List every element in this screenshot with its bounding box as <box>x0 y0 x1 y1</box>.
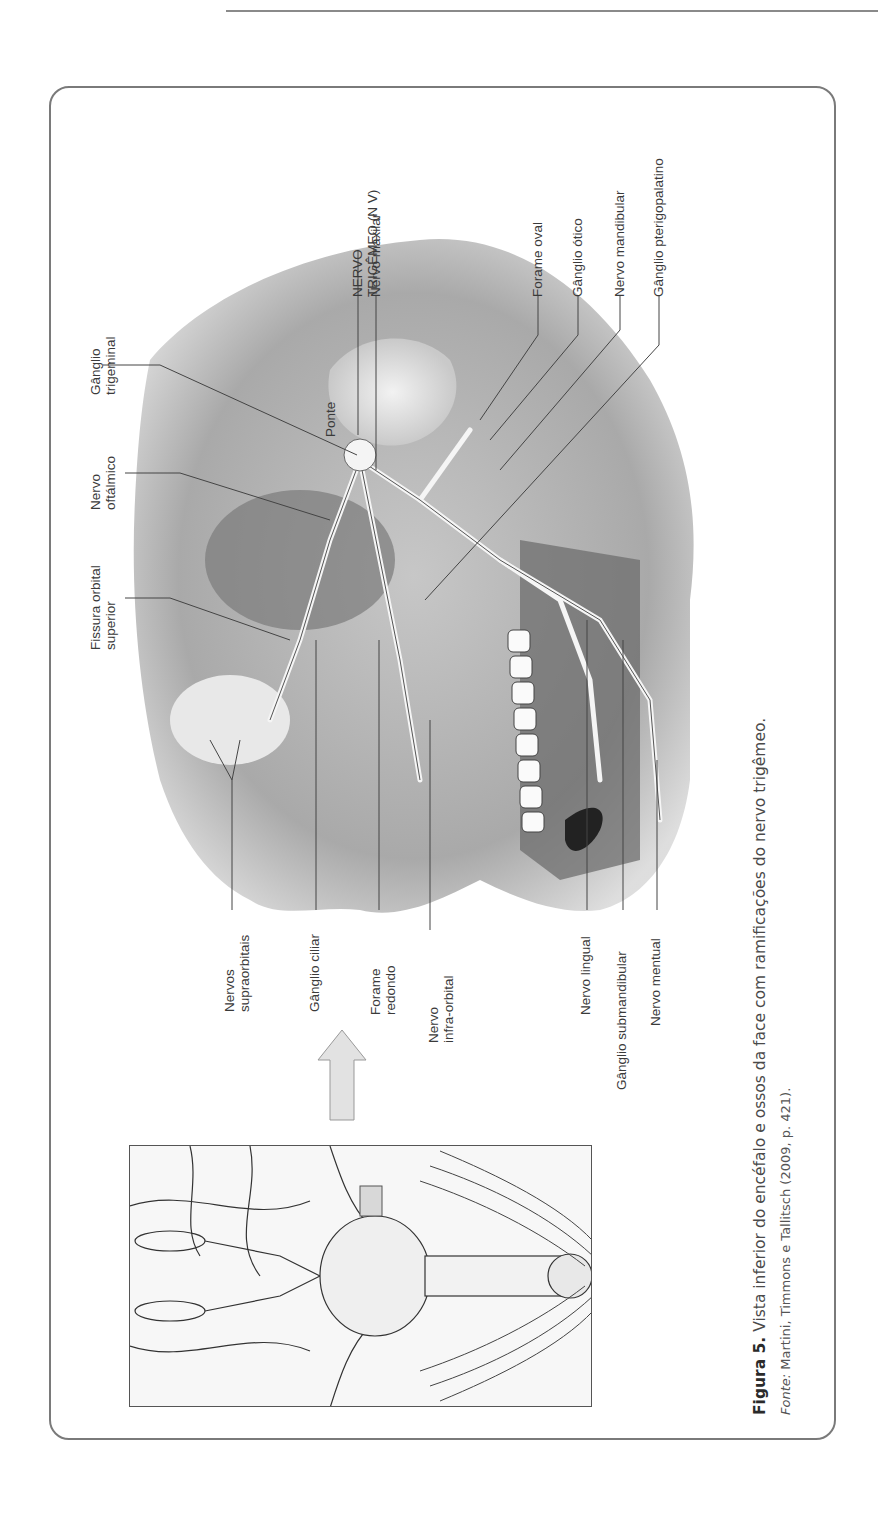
label-nervo-lingual: Nervo lingual <box>578 936 593 1015</box>
figure-caption-text: Vista inferior do encéfalo e ossos da fa… <box>751 718 769 1332</box>
source-text: Martini, Timmons e Tallitsch (2009, p. 4… <box>778 1088 793 1370</box>
label-nervo-oftalmico: Nervo oftálmico <box>88 456 118 510</box>
figure-source: Fonte: Martini, Timmons e Tallitsch (200… <box>778 1088 793 1415</box>
label-nervo-maxilar: Nervo maxilar <box>368 214 383 297</box>
label-ponte: Ponte <box>323 402 338 437</box>
label-ganglio-submandibular: Gânglio submandibular <box>614 951 629 1090</box>
label-ganglio-pterigopalatino: Gânglio pterigopalatino <box>651 158 666 297</box>
label-ganglio-ciliar: Gânglio ciliar <box>307 934 322 1012</box>
label-nervo-mandibular: Nervo mandibular <box>612 190 627 297</box>
label-ganglio-trigeminal: Gânglio trigeminal <box>88 336 118 395</box>
brain-inferior-view-inset <box>129 1145 592 1407</box>
label-forame-oval: Forame oval <box>530 222 545 297</box>
label-nervo-mentual: Nervo mentual <box>648 938 663 1026</box>
label-ganglio-otico: Gânglio ótico <box>570 218 585 297</box>
label-forame-redondo: Forame redondo <box>368 965 398 1015</box>
figure-number: Figura 5. <box>751 1337 769 1415</box>
source-label: Fonte: <box>778 1374 793 1415</box>
label-nervo-infra-orbital: Nervo infra-orbital <box>426 975 456 1043</box>
label-nervos-supraorbitais: Nervos supraorbitais <box>222 935 252 1012</box>
label-fissura-orbital-superior: Fissura orbital superior <box>88 565 118 650</box>
figure-caption: Figura 5. Vista inferior do encéfalo e o… <box>751 718 769 1415</box>
